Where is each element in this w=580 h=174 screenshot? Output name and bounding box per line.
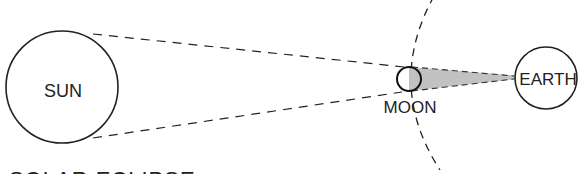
sun-moon-tangent-top: [93, 34, 404, 67]
moon-label: MOON: [384, 98, 437, 117]
diagram-canvas: SUN MOON EARTH SOLAR ECLIPSE: [0, 0, 580, 174]
diagram-caption: SOLAR ECLIPSE: [9, 167, 196, 174]
earth-label: EARTH: [519, 70, 576, 89]
sun-label: SUN: [44, 81, 82, 101]
solar-eclipse-diagram: SUN MOON EARTH SOLAR ECLIPSE: [0, 0, 580, 174]
sun-moon-tangent-bottom: [93, 92, 402, 138]
